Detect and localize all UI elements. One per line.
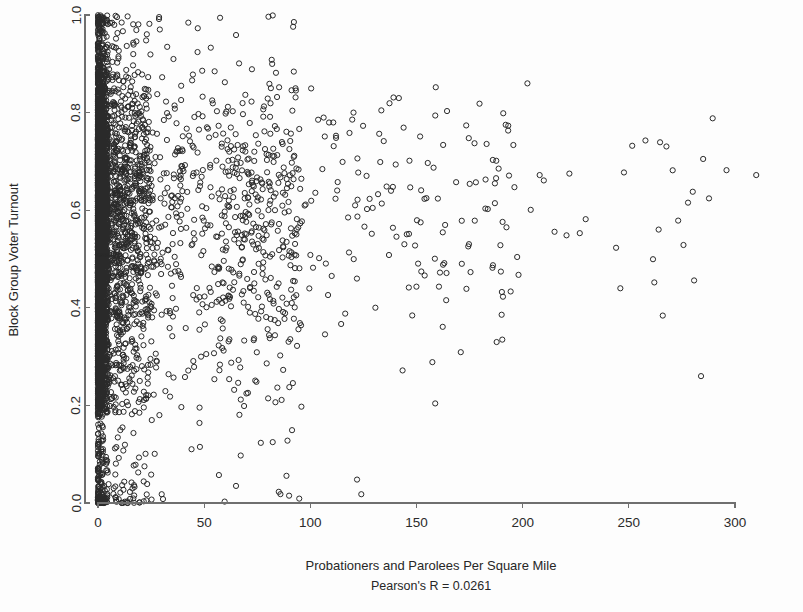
data-point	[255, 208, 260, 213]
data-point	[265, 96, 270, 101]
data-point	[170, 199, 175, 204]
data-point	[142, 464, 147, 469]
data-point	[650, 257, 655, 262]
data-point	[190, 78, 195, 83]
data-point	[247, 310, 252, 315]
data-point	[219, 187, 224, 192]
data-point	[281, 367, 286, 372]
data-point	[154, 218, 159, 223]
data-point	[219, 141, 224, 146]
data-point	[177, 219, 182, 224]
data-point	[217, 368, 222, 373]
data-point	[443, 222, 448, 227]
data-point	[618, 286, 623, 291]
y-tick-label: 1.0	[69, 6, 84, 25]
data-point	[164, 137, 169, 142]
data-point	[484, 141, 489, 146]
data-point	[126, 115, 131, 120]
data-point	[422, 273, 427, 278]
data-point	[113, 36, 118, 41]
data-point	[256, 295, 261, 300]
data-point	[264, 233, 269, 238]
y-tick-label: 0.8	[69, 103, 84, 122]
data-point	[131, 22, 136, 27]
data-point	[157, 27, 162, 32]
data-point	[698, 374, 703, 379]
data-point	[200, 231, 205, 236]
data-point	[407, 158, 412, 163]
data-point	[141, 326, 146, 331]
data-point	[249, 189, 254, 194]
data-point	[435, 196, 440, 201]
data-point	[291, 177, 296, 182]
x-tick-label: 150	[405, 515, 428, 530]
data-point	[182, 374, 187, 379]
data-point	[233, 214, 238, 219]
data-point	[249, 99, 254, 104]
data-point	[473, 180, 478, 185]
data-point	[220, 326, 225, 331]
data-point	[144, 38, 149, 43]
y-tick-label: 0.2	[69, 396, 84, 415]
data-point	[173, 211, 178, 216]
data-point	[149, 417, 154, 422]
data-point	[281, 165, 286, 170]
data-point	[232, 280, 237, 285]
data-point	[133, 386, 138, 391]
data-point	[228, 144, 233, 149]
data-point	[681, 242, 686, 247]
data-point	[146, 260, 151, 265]
x-tick-label: 50	[197, 515, 212, 530]
data-point	[132, 72, 137, 77]
data-point	[467, 181, 472, 186]
data-point	[264, 361, 269, 366]
data-point	[396, 95, 401, 100]
data-point	[431, 165, 436, 170]
data-point	[113, 472, 118, 477]
data-point	[437, 270, 442, 275]
data-point	[190, 143, 195, 148]
data-point	[492, 181, 497, 186]
data-point	[676, 218, 681, 223]
data-point	[197, 420, 202, 425]
data-point	[309, 86, 314, 91]
data-point	[289, 428, 294, 433]
data-point	[355, 197, 360, 202]
data-point	[472, 218, 477, 223]
data-point	[179, 97, 184, 102]
data-point	[643, 138, 648, 143]
data-point	[119, 20, 124, 25]
data-point	[130, 63, 135, 68]
data-point	[496, 166, 501, 171]
data-point	[247, 202, 252, 207]
data-point	[408, 185, 413, 190]
data-point	[321, 115, 326, 120]
data-point	[375, 192, 380, 197]
data-point	[384, 184, 389, 189]
data-point	[238, 453, 243, 458]
x-tick-label: 0	[94, 515, 102, 530]
data-point	[299, 176, 304, 181]
data-point	[213, 132, 218, 137]
data-point	[279, 397, 284, 402]
scatter-plot-figure: 0501001502002503000.00.20.40.60.81.0 Pro…	[0, 0, 803, 612]
data-point	[252, 149, 257, 154]
data-point	[291, 69, 296, 74]
data-point	[121, 85, 126, 90]
data-point	[220, 164, 225, 169]
data-point	[236, 380, 241, 385]
data-point	[272, 208, 277, 213]
data-point	[394, 234, 399, 239]
data-point	[124, 43, 129, 48]
data-point	[381, 139, 386, 144]
data-point	[292, 241, 297, 246]
data-point	[157, 413, 162, 418]
data-point	[236, 357, 241, 362]
data-point	[195, 49, 200, 54]
data-point	[277, 85, 282, 90]
data-point	[223, 221, 228, 226]
data-point	[525, 81, 530, 86]
data-point	[276, 306, 281, 311]
data-point	[136, 22, 141, 27]
data-point	[228, 304, 233, 309]
